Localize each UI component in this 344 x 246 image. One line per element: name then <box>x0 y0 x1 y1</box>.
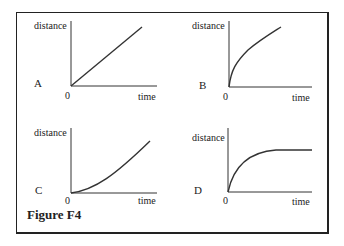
panel-c-letter: C <box>35 185 42 196</box>
panel-d-graph <box>228 128 312 192</box>
panel-c-xlabel: time <box>138 196 156 206</box>
panel-a-graph <box>71 21 157 86</box>
panel-b-xlabel: time <box>292 93 310 103</box>
panel-d-ylabel: distance <box>192 133 225 143</box>
panel-a-letter: A <box>34 78 42 89</box>
panel-d-origin: 0 <box>223 196 228 206</box>
panel-c-ylabel: distance <box>34 128 67 138</box>
panel-c-graph <box>71 128 157 193</box>
panel-c-curve <box>71 141 150 193</box>
panel-a-curve <box>71 27 142 86</box>
panel-d-xlabel: time <box>292 197 310 207</box>
panel-b-letter: B <box>199 80 206 91</box>
panel-d-letter: D <box>194 185 202 196</box>
panel-a-xlabel: time <box>138 92 156 102</box>
panel-b-origin: 0 <box>223 92 228 102</box>
panel-d-curve <box>228 150 312 192</box>
figure-caption: Figure F4 <box>27 207 81 223</box>
panel-a-origin: 0 <box>65 91 70 101</box>
panel-c-origin: 0 <box>65 196 70 206</box>
panel-a-ylabel: distance <box>34 21 67 31</box>
panel-b-curve <box>229 27 281 87</box>
panel-b-graph <box>229 21 312 87</box>
panel-b-ylabel: distance <box>192 21 225 31</box>
